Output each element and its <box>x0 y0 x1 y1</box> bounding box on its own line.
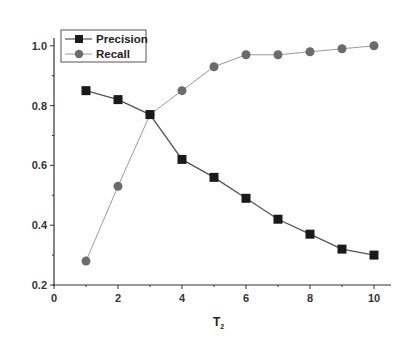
legend: Precision Recall <box>61 30 148 62</box>
x-tick-label: 6 <box>243 292 249 304</box>
precision-data-point <box>338 245 347 254</box>
y-axis: 0.20.40.60.81.0 <box>32 38 54 291</box>
series-lines <box>86 46 374 261</box>
precision-data-point <box>146 110 155 119</box>
x-axis-title-subscript: 2 <box>220 323 224 330</box>
x-tick-label: 2 <box>115 292 121 304</box>
series-line-recall <box>86 46 374 261</box>
recall-data-point <box>370 41 379 50</box>
y-tick-label: 0.6 <box>32 159 47 171</box>
y-tick-label: 0.8 <box>32 100 47 112</box>
recall-data-point <box>306 47 315 56</box>
series-markers <box>82 41 379 265</box>
recall-data-point <box>114 182 123 191</box>
y-tick-label: 1.0 <box>32 40 47 52</box>
precision-data-point <box>274 215 283 224</box>
y-tick-label: 0.4 <box>32 219 48 231</box>
precision-data-point <box>114 95 123 104</box>
circle-marker-icon <box>75 50 83 58</box>
x-axis-ticks: 0246810 <box>51 285 380 304</box>
x-tick-label: 10 <box>368 292 380 304</box>
legend-label-precision: Precision <box>96 33 148 45</box>
precision-data-point <box>210 173 219 182</box>
x-tick-label: 4 <box>179 292 186 304</box>
recall-data-point <box>274 50 283 59</box>
series-line-precision <box>86 91 374 255</box>
precision-data-point <box>178 155 187 164</box>
recall-data-point <box>242 50 251 59</box>
line-chart: 0.20.40.60.81.0 0246810 T2 Precision Rec… <box>0 0 408 346</box>
y-axis-ticks: 0.20.40.60.81.0 <box>32 40 54 291</box>
recall-data-point <box>178 86 187 95</box>
x-tick-label: 0 <box>51 292 57 304</box>
x-axis-title: T2 <box>213 315 224 330</box>
recall-data-point <box>338 44 347 53</box>
x-tick-label: 8 <box>307 292 313 304</box>
precision-data-point <box>242 194 251 203</box>
recall-data-point <box>82 257 91 266</box>
recall-data-point <box>210 62 219 71</box>
precision-data-point <box>306 230 315 239</box>
precision-data-point <box>370 251 379 260</box>
y-tick-label: 0.2 <box>32 279 47 291</box>
square-marker-icon <box>75 35 83 43</box>
x-axis: 0246810 T2 <box>51 285 391 330</box>
precision-data-point <box>82 86 91 95</box>
legend-label-recall: Recall <box>96 48 130 60</box>
